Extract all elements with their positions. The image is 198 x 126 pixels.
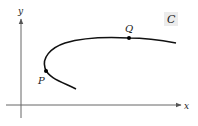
x-axis-label: x xyxy=(184,101,189,111)
point-q-label: Q xyxy=(125,23,133,34)
curve-label: C xyxy=(167,13,176,26)
point-p-label: P xyxy=(37,75,45,86)
diagram-canvas: x y C P Q xyxy=(0,0,198,126)
point-q xyxy=(127,36,131,40)
y-axis-label: y xyxy=(17,6,24,16)
point-p xyxy=(44,69,48,73)
curve-c xyxy=(44,38,176,89)
